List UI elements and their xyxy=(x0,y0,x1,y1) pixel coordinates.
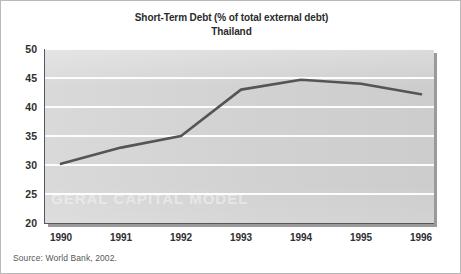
source-note: Source: World Bank, 2002. xyxy=(13,253,117,263)
series-layer xyxy=(1,1,461,274)
series-line-short-term-debt xyxy=(61,80,421,164)
chart-figure: Short-Term Debt (% of total external deb… xyxy=(0,0,461,274)
